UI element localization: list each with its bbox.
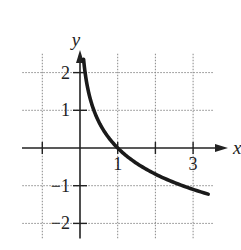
chart: 13−2−112xy — [0, 0, 241, 250]
x-axis-arrow-icon — [215, 144, 228, 152]
x-tick-label: 1 — [113, 154, 122, 174]
y-tick-label: 2 — [61, 63, 70, 83]
y-axis-label: y — [70, 29, 81, 50]
x-axis-label: x — [232, 137, 241, 158]
y-tick-label: −1 — [51, 176, 70, 196]
y-tick-label: 1 — [61, 100, 70, 120]
y-tick-label: −2 — [51, 213, 70, 233]
x-tick-label: 3 — [189, 154, 198, 174]
axes — [22, 50, 228, 238]
